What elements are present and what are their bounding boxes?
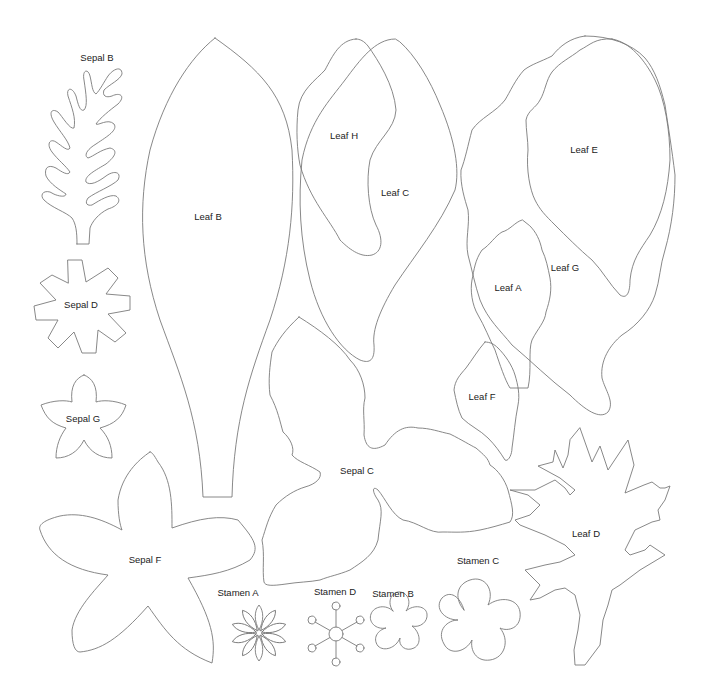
label-leaf-d: Leaf D — [572, 528, 600, 539]
label-stamen-b: Stamen B — [372, 588, 414, 599]
label-sepal-c: Sepal C — [340, 465, 374, 476]
label-leaf-a: Leaf A — [495, 282, 522, 293]
label-sepal-g: Sepal G — [66, 413, 100, 424]
sepal-b-outline — [42, 69, 122, 244]
stamen-b-outline — [370, 592, 427, 649]
leaf-d-outline — [510, 428, 670, 665]
label-leaf-c: Leaf C — [381, 187, 409, 198]
label-leaf-e: Leaf E — [570, 144, 597, 155]
stamen-a-outline — [231, 605, 287, 661]
sepal-c-outline — [262, 317, 513, 585]
label-leaf-h: Leaf H — [330, 130, 358, 141]
template-canvas: Sepal B Leaf B Leaf H Leaf C Leaf E Leaf… — [0, 0, 707, 693]
label-sepal-d: Sepal D — [64, 299, 98, 310]
label-leaf-g: Leaf G — [551, 262, 580, 273]
stamen-d-outline — [308, 602, 364, 666]
leaf-a-outline — [471, 220, 551, 388]
leaf-c-outline — [300, 39, 457, 361]
label-sepal-b: Sepal B — [80, 52, 113, 63]
stamen-c-outline — [439, 579, 520, 660]
leaf-b-outline — [143, 38, 293, 497]
label-leaf-f: Leaf F — [469, 391, 496, 402]
label-stamen-c: Stamen C — [457, 555, 499, 566]
leaf-g-outline — [461, 36, 675, 415]
label-stamen-a: Stamen A — [217, 587, 258, 598]
label-stamen-d: Stamen D — [314, 586, 356, 597]
label-sepal-f: Sepal F — [129, 554, 162, 565]
leaf-e-outline — [526, 39, 670, 296]
leaf-h-outline — [297, 39, 396, 256]
label-leaf-b: Leaf B — [194, 211, 221, 222]
